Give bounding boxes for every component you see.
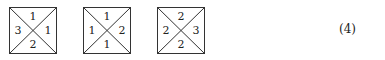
tile-bottom-value: 2 <box>175 39 187 50</box>
tile-left-value: 2 <box>160 25 172 36</box>
tile-3: 2 2 3 2 <box>157 7 205 54</box>
tile-2: 1 1 2 1 <box>83 7 131 54</box>
tile-top-value: 2 <box>175 11 187 22</box>
tile-bottom-value: 1 <box>101 39 113 50</box>
tile-top-value: 1 <box>101 11 113 22</box>
tile-right-value: 2 <box>116 25 128 36</box>
tile-1: 1 3 1 2 <box>9 7 57 54</box>
tile-right-value: 1 <box>42 25 54 36</box>
tile-right-value: 3 <box>190 25 202 36</box>
tile-left-value: 1 <box>86 25 98 36</box>
tile-top-value: 1 <box>27 11 39 22</box>
equation-number: (4) <box>339 22 356 36</box>
tile-bottom-value: 2 <box>27 39 39 50</box>
tile-left-value: 3 <box>12 25 24 36</box>
